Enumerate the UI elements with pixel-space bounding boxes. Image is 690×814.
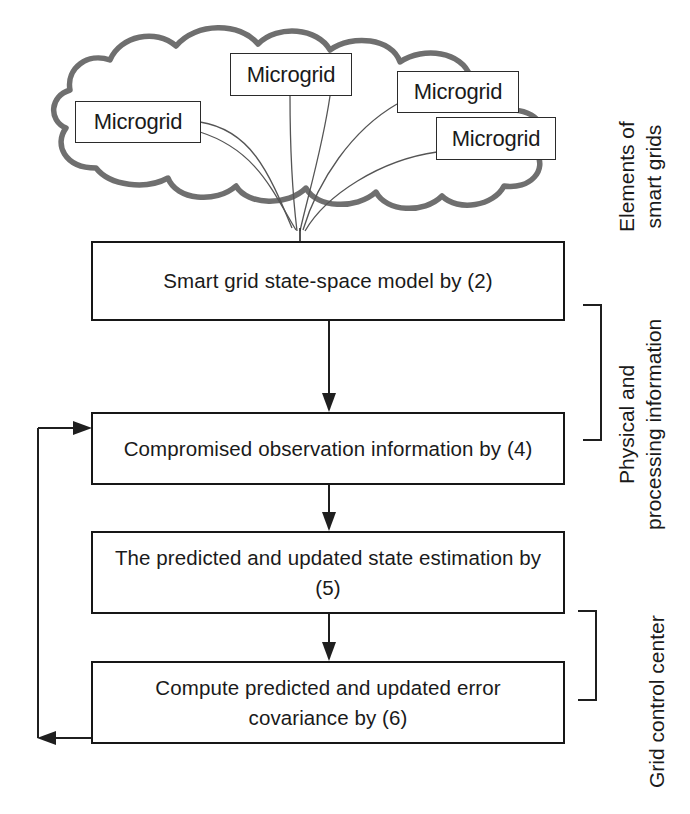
process-box-compromised-observation[interactable]: Compromised observation information by (… [91,412,565,485]
arrow-step2-to-step4 [322,320,336,412]
process-box-state-estimation[interactable]: The predicted and updated state estimati… [91,531,565,614]
microgrid-node-label: Microgrid [452,128,541,150]
microgrid-node-lower-right[interactable]: Microgrid [436,117,556,160]
arrow-step5-to-step6 [322,613,336,661]
microgrid-node-left[interactable]: Microgrid [75,101,201,143]
group-label-grid-control-center: Grid control center [644,615,671,788]
process-box-label: The predicted and updated state estimati… [103,543,553,602]
group-label-line-2: smart grids [641,121,668,232]
group-label-line-1: Physical and [614,319,641,530]
group-label-line-1: Elements of [614,121,641,232]
bracket-physical-processing [583,305,601,440]
feedback-loop-step6-to-step4 [37,421,92,745]
group-label-line-2: processing information [641,319,668,530]
microgrid-node-label: Microgrid [247,64,336,86]
microgrid-node-upper-right[interactable]: Microgrid [397,71,519,113]
process-box-state-space-model[interactable]: Smart grid state-space model by (2) [91,241,565,321]
bracket-grid-control-center [578,611,596,700]
microgrid-node-label: Microgrid [94,111,183,133]
microgrid-node-label: Microgrid [414,81,503,103]
process-box-label: Smart grid state-space model by (2) [163,266,492,296]
group-label-physical-and-processing-information: Physical and processing information [614,319,668,530]
diagram-canvas: Microgrid Microgrid Microgrid Microgrid … [0,0,690,814]
group-label-line-1: Grid control center [644,615,671,788]
arrow-step4-to-step5 [322,484,336,531]
microgrid-node-top[interactable]: Microgrid [230,53,352,96]
group-label-elements-of-smart-grids: Elements of smart grids [614,121,668,232]
process-box-label: Compute predicted and updated error cova… [103,673,553,732]
process-box-label: Compromised observation information by (… [124,434,533,464]
process-box-error-covariance[interactable]: Compute predicted and updated error cova… [91,661,565,744]
